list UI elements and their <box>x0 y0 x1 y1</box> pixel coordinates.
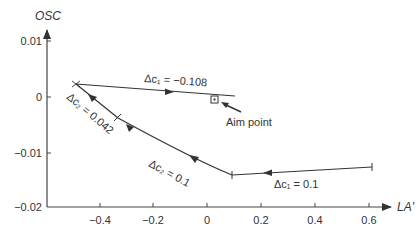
aim-point-marker: Aim point <box>211 96 272 128</box>
annotation-dc2-first: Δc₂ = 0.1 <box>147 157 192 189</box>
segment-dc2-first <box>118 118 232 175</box>
arrow-left-icon <box>263 170 272 177</box>
segment-dc1-first <box>232 167 372 175</box>
y-tick-label: −0.01 <box>14 147 42 159</box>
y-tick-label: 0 <box>36 91 42 103</box>
arrow-up-left-icon <box>189 155 199 163</box>
aim-point-label: Aim point <box>226 116 272 128</box>
arrow-up-left-icon <box>88 94 97 102</box>
x-tick-label: −0.2 <box>142 214 164 226</box>
annotation-dc1-first: Δc₁ = 0.1 <box>274 178 318 190</box>
arrow-right-icon <box>165 89 174 96</box>
x-tick-label: 0 <box>204 214 210 226</box>
y-axis: 0.01 0 −0.01 −0.02 OSC <box>14 9 61 213</box>
arrow-up-left-icon <box>126 124 134 132</box>
y-tick-label: −0.02 <box>14 201 42 213</box>
diagram-canvas: 0.01 0 −0.01 −0.02 OSC −0.4 −0.2 0 0.2 0… <box>0 0 420 236</box>
x-tick-label: 0.2 <box>253 214 268 226</box>
x-tick-label: −0.4 <box>89 214 111 226</box>
segment-dc1-second <box>76 84 235 96</box>
x-axis-title: LA' <box>397 200 415 214</box>
x-axis: −0.4 −0.2 0 0.2 0.4 0.6 LA' <box>47 200 415 226</box>
y-axis-title: OSC <box>35 9 61 23</box>
y-tick-label: 0.01 <box>21 35 42 47</box>
annotation-dc1-second: Δc₁ = −0.108 <box>144 72 208 88</box>
x-tick-label: 0.6 <box>361 214 376 226</box>
x-tick-label: 0.4 <box>307 214 322 226</box>
direction-arrows <box>88 89 272 177</box>
correction-path <box>72 81 372 179</box>
